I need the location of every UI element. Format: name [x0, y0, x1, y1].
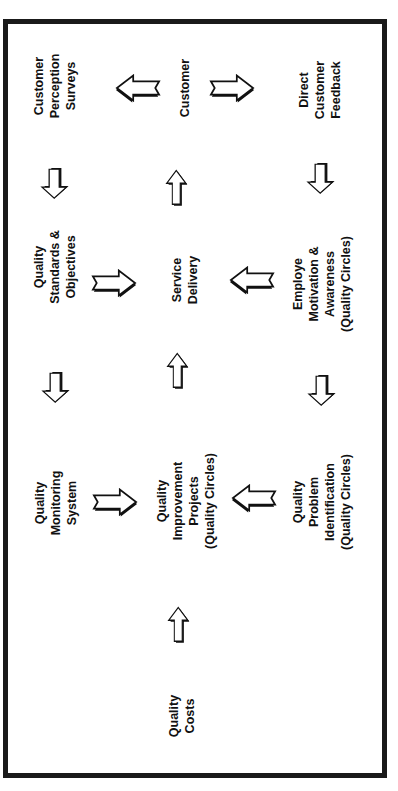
- node-line: Improvement: [170, 453, 186, 549]
- node-line: Objectives: [63, 230, 79, 304]
- node-line: Motivation &: [306, 236, 322, 332]
- arrow-down-icon: [304, 155, 340, 195]
- node-line: Customer: [177, 59, 193, 117]
- node-employe-motivation: Employe Motivation & Awareness (Quality …: [290, 236, 354, 332]
- arrow-right-icon: [208, 73, 256, 103]
- node-line: Service: [169, 256, 185, 305]
- node-line: Direct: [296, 61, 312, 119]
- node-customer-perception-surveys: Customer Perception Surveys: [31, 54, 79, 119]
- node-line: Problem: [306, 454, 322, 550]
- node-line: (Quality Circles): [338, 454, 354, 550]
- node-line: Quality: [290, 454, 306, 550]
- arrow-up-icon: [165, 162, 195, 212]
- node-line: System: [64, 471, 80, 536]
- node-quality-costs: Quality Costs: [166, 695, 198, 737]
- arrow-left-icon: [230, 483, 278, 513]
- node-line: Awareness: [322, 236, 338, 332]
- node-line: Customer: [312, 61, 328, 119]
- arrow-up-icon: [167, 599, 197, 649]
- arrow-down-icon: [39, 364, 75, 404]
- node-quality-problem: Quality Problem Identification (Quality …: [290, 454, 354, 550]
- arrow-down-icon: [38, 160, 74, 200]
- node-direct-customer-feedback: Direct Customer Feedback: [296, 61, 344, 119]
- arrow-down-icon: [305, 367, 341, 407]
- node-line: Identification: [322, 454, 338, 550]
- arrow-right-icon: [91, 487, 139, 517]
- node-quality-improvement: Quality Improvement Projects (Quality Ci…: [154, 453, 218, 549]
- node-line: Quality: [154, 453, 170, 549]
- node-quality-monitoring: Quality Monitoring System: [32, 471, 80, 536]
- node-line: Feedback: [328, 61, 344, 119]
- node-line: Perception: [47, 54, 63, 119]
- node-line: (Quality Circles): [338, 236, 354, 332]
- node-line: Employe: [290, 236, 306, 332]
- node-quality-standards: Quality Standards & Objectives: [31, 230, 79, 304]
- node-line: Quality: [31, 230, 47, 304]
- node-line: Surveys: [63, 54, 79, 119]
- node-line: Projects: [186, 453, 202, 549]
- arrow-up-icon: [166, 345, 196, 395]
- node-line: Costs: [182, 695, 198, 737]
- node-line: Monitoring: [48, 471, 64, 536]
- arrow-left-icon: [114, 73, 162, 103]
- node-service-delivery: Service Delivery: [169, 256, 201, 305]
- node-customer: Customer: [177, 59, 193, 117]
- arrow-left-icon: [228, 265, 276, 295]
- node-line: Standards &: [47, 230, 63, 304]
- arrow-right-icon: [90, 268, 138, 298]
- node-line: Customer: [31, 54, 47, 119]
- node-line: Quality: [32, 471, 48, 536]
- node-line: (Quality Circles): [202, 453, 218, 549]
- node-line: Delivery: [185, 256, 201, 305]
- node-line: Quality: [166, 695, 182, 737]
